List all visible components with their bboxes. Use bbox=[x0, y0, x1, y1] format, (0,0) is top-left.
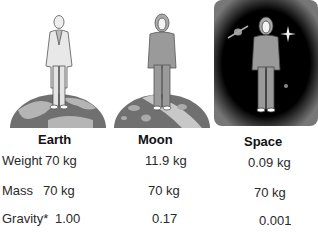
space-gravity: 0.001 bbox=[259, 213, 292, 228]
moon-weight: 11.9 kg bbox=[145, 153, 187, 168]
earth-mass: 70 kg bbox=[43, 183, 75, 198]
row-label-mass: Mass bbox=[2, 183, 33, 198]
earth-weight: 70 kg bbox=[45, 153, 77, 168]
column-header-moon: Moon bbox=[138, 132, 173, 147]
row-label-gravity: Gravity* bbox=[2, 211, 48, 226]
space-weight: 0.09 kg bbox=[248, 155, 291, 170]
space-mass: 70 kg bbox=[254, 185, 286, 200]
moon-illustration bbox=[112, 0, 212, 128]
space-illustration bbox=[214, 0, 318, 126]
column-header-space: Space bbox=[244, 134, 282, 149]
small-planet-icon bbox=[284, 84, 288, 88]
earth-illustration bbox=[8, 0, 108, 128]
moon-gravity: 0.17 bbox=[152, 211, 177, 226]
column-header-earth: Earth bbox=[38, 132, 71, 147]
earth-gravity: 1.00 bbox=[55, 211, 80, 226]
moon-mass: 70 kg bbox=[148, 183, 180, 198]
row-label-weight: Weight bbox=[2, 153, 42, 168]
